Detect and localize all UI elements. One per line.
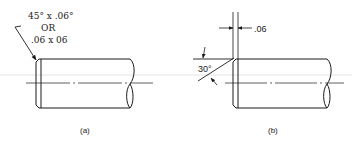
angle-value: 30° xyxy=(198,64,212,74)
note-chamfer-angle: 45° x .06° xyxy=(28,11,74,21)
shaft-a xyxy=(36,59,134,108)
panel-a: 45° x .06° OR .06 x 06 (a) xyxy=(15,11,153,135)
angle-arrow-bottom xyxy=(211,78,217,85)
panel-b-label: (b) xyxy=(268,126,278,135)
panel-b: .06 30° (b) xyxy=(193,12,344,135)
note-chamfer-size: .06 x 06 xyxy=(31,35,68,45)
note-or: OR xyxy=(41,23,55,33)
shaft-b xyxy=(233,59,331,108)
angle-arrow-top xyxy=(203,47,205,58)
panel-a-label: (a) xyxy=(80,126,90,135)
chamfer-diagram: 45° x .06° OR .06 x 06 (a) xyxy=(0,0,352,146)
dimension-value: .06 xyxy=(254,24,267,34)
